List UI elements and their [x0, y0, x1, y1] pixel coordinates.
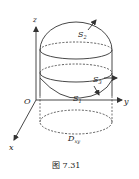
figure-caption: 图 7.31: [52, 161, 80, 170]
normal-arrow-s2: [88, 20, 96, 30]
x-axis-label: x: [9, 143, 14, 152]
x-axis: [14, 100, 36, 140]
figure-7-31: z y x O S2 S3 S1 Dxy 图 7.31: [0, 0, 139, 179]
hemisphere-s2: [40, 22, 112, 50]
region-dxy: [40, 110, 112, 134]
label-s1: S1: [73, 94, 82, 104]
middle-ellipse-back: [40, 64, 112, 73]
label-s3: S3: [93, 75, 102, 85]
y-axis-label: y: [123, 97, 129, 106]
normal-arrow-s1: [94, 86, 99, 95]
upper-ellipse-front: [40, 50, 112, 59]
top-rim-back: [40, 42, 112, 50]
z-axis-label: z: [32, 16, 37, 24]
label-s2: S2: [78, 30, 87, 40]
label-dxy: Dxy: [67, 134, 80, 145]
origin-label: O: [24, 97, 31, 106]
